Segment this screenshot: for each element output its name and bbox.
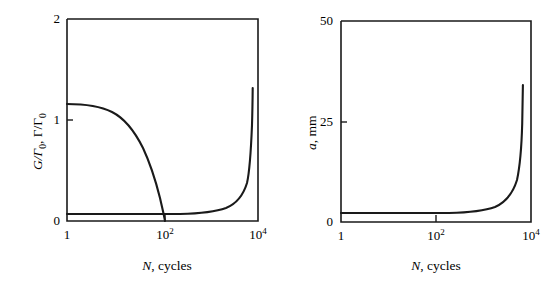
- curve-crack-length: [341, 85, 523, 213]
- x-tick-100-exponent-left: 2: [169, 226, 174, 236]
- y-axis-title-unit-right: , mm: [304, 115, 319, 143]
- x-axis-title-unit-left: , cycles: [151, 258, 191, 273]
- y-tick-label-0-left: 0: [42, 214, 60, 227]
- y-axis-title-sub1-left: 0: [38, 144, 48, 149]
- x-tick-10000-mantissa-left: 10: [249, 227, 262, 242]
- y-tick-label-2-left: 2: [42, 12, 60, 25]
- y-axis-title-left: G/Γ0, Γ/Γ0: [30, 113, 46, 170]
- y-axis-title-symbol-right: a: [304, 143, 319, 150]
- x-tick-100-mantissa-right: 10: [427, 228, 440, 243]
- x-tick-label-1-left: 1: [57, 228, 77, 241]
- x-tick-100-mantissa-left: 10: [156, 227, 169, 242]
- y-axis-title-right: a, mm: [304, 115, 320, 150]
- x-axis-title-right: N, cycles: [386, 258, 486, 274]
- x-tick-10000-mantissa-right: 10: [522, 228, 535, 243]
- y-axis-title-part1-left: G/Γ: [30, 149, 45, 170]
- y-tick-label-0-right: 0: [311, 215, 333, 228]
- x-axis-title-left: N, cycles: [117, 258, 217, 274]
- x-tick-label-10000-right: 104: [516, 229, 546, 242]
- chart-panel-left: 0 1 2 1 102 104 N, cycles G/Γ0, Γ/Γ0: [0, 0, 280, 291]
- x-tick-10000-exponent-left: 4: [262, 226, 267, 236]
- figure-container: 0 1 2 1 102 104 N, cycles G/Γ0, Γ/Γ0 0 2…: [0, 0, 559, 291]
- x-tick-100-exponent-right: 2: [440, 227, 445, 237]
- x-tick-10000-exponent-right: 4: [535, 227, 540, 237]
- axis-frame-left: [67, 19, 258, 221]
- y-axis-title-part2-left: , Γ/Γ: [30, 118, 45, 144]
- y-tick-label-50-right: 50: [311, 14, 333, 27]
- y-axis-title-sub2-left: 0: [38, 113, 48, 118]
- x-tick-label-10000-left: 104: [243, 228, 273, 241]
- x-axis-title-unit-right: , cycles: [420, 258, 460, 273]
- plot-area-right: [279, 0, 559, 291]
- chart-panel-right: 0 25 50 1 102 104 N, cycles a, mm: [279, 0, 559, 291]
- axis-frame-right: [341, 21, 531, 222]
- curve-g-over-gamma0: [67, 104, 165, 221]
- x-axis-title-symbol-right: N: [411, 258, 420, 273]
- x-tick-label-100-left: 102: [150, 228, 180, 241]
- x-tick-label-1-right: 1: [331, 229, 351, 242]
- x-axis-title-symbol-left: N: [142, 258, 151, 273]
- x-tick-label-100-right: 102: [421, 229, 451, 242]
